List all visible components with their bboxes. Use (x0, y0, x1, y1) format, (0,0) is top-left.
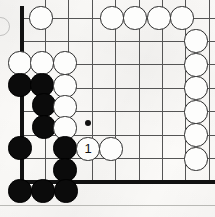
stone-white[interactable] (53, 74, 76, 97)
star-point-center-icon (85, 120, 91, 126)
stone-white[interactable] (53, 95, 76, 118)
stone-black[interactable] (8, 73, 31, 96)
stone-white[interactable] (184, 123, 207, 146)
stone-white[interactable] (184, 100, 207, 123)
stone-black[interactable] (53, 158, 76, 181)
stone-black[interactable] (32, 115, 55, 138)
stone-white[interactable] (8, 51, 31, 74)
stone-white[interactable] (184, 29, 207, 52)
stone-white[interactable] (53, 51, 76, 74)
stone-black[interactable] (8, 136, 31, 159)
stone-white[interactable] (29, 6, 52, 29)
stone-white[interactable] (123, 6, 146, 29)
stone-black[interactable] (8, 179, 31, 202)
stone-black[interactable] (54, 179, 77, 202)
stone-black[interactable] (32, 93, 55, 116)
stone-white[interactable] (30, 51, 53, 74)
stone-white-move-1[interactable]: 1 (76, 137, 99, 160)
stone-white[interactable] (170, 6, 193, 29)
page-divider-rule (0, 205, 215, 206)
stone-white[interactable] (184, 53, 207, 76)
stone-white[interactable] (184, 147, 207, 170)
stone-white[interactable] (184, 76, 207, 99)
stone-white[interactable] (147, 6, 170, 29)
stone-black[interactable] (53, 136, 76, 159)
move-number-label: 1 (77, 138, 98, 159)
stone-white[interactable] (100, 6, 123, 29)
stone-black[interactable] (31, 179, 54, 202)
go-diagram-screen: 1 (0, 0, 215, 217)
stone-white[interactable] (99, 137, 122, 160)
